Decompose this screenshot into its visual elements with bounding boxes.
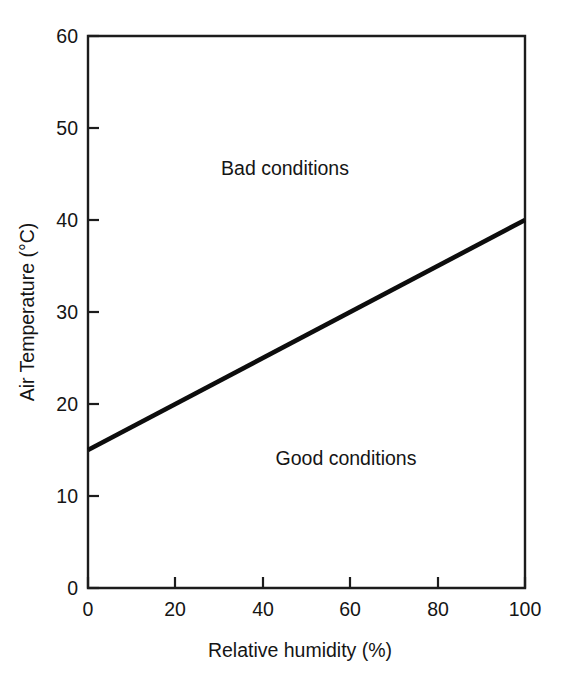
y-tick-label-40: 40 <box>56 209 78 231</box>
figure-background <box>0 0 567 673</box>
good-conditions-label: Good conditions <box>276 447 417 469</box>
x-tick-label-60: 60 <box>339 598 361 620</box>
y-tick-label-0: 0 <box>67 577 78 599</box>
x-axis-title: Relative humidity (%) <box>208 639 392 661</box>
y-tick-label-30: 30 <box>56 301 78 323</box>
x-tick-label-80: 80 <box>427 598 449 620</box>
y-tick-label-20: 20 <box>56 393 78 415</box>
chart-figure: 60 50 40 30 20 10 0 0 20 40 60 80 100 Re… <box>0 0 567 673</box>
y-tick-label-10: 10 <box>56 485 78 507</box>
x-tick-label-20: 20 <box>164 598 186 620</box>
bad-conditions-label: Bad conditions <box>221 157 349 179</box>
x-tick-label-0: 0 <box>83 598 94 620</box>
x-tick-label-100: 100 <box>509 598 542 620</box>
y-axis-title: Air Temperature (°C) <box>16 223 38 402</box>
chart-canvas: 60 50 40 30 20 10 0 0 20 40 60 80 100 Re… <box>0 0 567 673</box>
x-tick-label-40: 40 <box>252 598 274 620</box>
y-tick-label-50: 50 <box>56 117 78 139</box>
y-tick-label-60: 60 <box>56 25 78 47</box>
